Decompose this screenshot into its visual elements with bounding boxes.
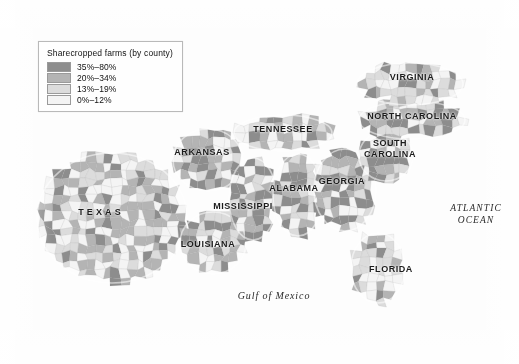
- legend-entry: 20%–34%: [47, 72, 173, 83]
- water-label-atlantic-ocean: ATLANTICOCEAN: [450, 202, 502, 226]
- state-label-florida: FLORIDA: [369, 264, 413, 275]
- legend-entry: 35%–80%: [47, 61, 173, 72]
- state-label-north-carolina: NORTH CAROLINA: [367, 111, 457, 122]
- state-label-alabama: ALABAMA: [269, 183, 318, 194]
- water-label-gulf-of-mexico: Gulf of Mexico: [238, 290, 311, 302]
- legend-entry-list: 35%–80%20%–34%13%–19%0%–12%: [47, 61, 173, 105]
- legend-swatch: [47, 84, 71, 94]
- state-label-arkansas: ARKANSAS: [174, 147, 229, 158]
- legend-entry-label: 35%–80%: [77, 62, 116, 72]
- state-label-georgia: GEORGIA: [319, 176, 365, 187]
- legend-entry-label: 20%–34%: [77, 73, 116, 83]
- legend-entry-label: 0%–12%: [77, 95, 112, 105]
- legend-swatch: [47, 95, 71, 105]
- sharecropped-farms-map: VIRGINIANORTH CAROLINASOUTHCAROLINATENNE…: [0, 0, 519, 364]
- state-label-texas: TEXAS: [78, 207, 124, 218]
- legend-entry-label: 13%–19%: [77, 84, 116, 94]
- state-label-south-carolina: SOUTHCAROLINA: [364, 138, 416, 160]
- legend-entry: 0%–12%: [47, 94, 173, 105]
- state-label-louisiana: LOUISIANA: [181, 239, 235, 250]
- state-label-virginia: VIRGINIA: [390, 72, 434, 83]
- state-label-mississippi: MISSISSIPPI: [213, 201, 273, 212]
- legend-swatch: [47, 73, 71, 83]
- legend-entry: 13%–19%: [47, 83, 173, 94]
- legend-title: Sharecropped farms (by county): [47, 48, 173, 58]
- state-label-tennessee: TENNESSEE: [253, 124, 312, 135]
- legend-swatch: [47, 62, 71, 72]
- map-legend: Sharecropped farms (by county) 35%–80%20…: [38, 41, 183, 112]
